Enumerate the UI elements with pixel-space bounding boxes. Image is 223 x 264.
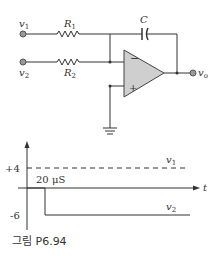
svg-text:+: + (129, 82, 137, 93)
v2-label: v2 (19, 67, 29, 80)
svg-text:-6: -6 (10, 210, 20, 221)
figure-caption: 그림 P6.94 (12, 232, 67, 248)
r2-label: R2 (63, 67, 76, 80)
v1-label: v1 (19, 18, 29, 31)
svg-text:−: − (130, 52, 139, 65)
svg-text:+4: +4 (5, 163, 20, 174)
waveform-chart (18, 141, 200, 230)
v2-series-label: v2 (166, 201, 176, 214)
resistor-r1 (57, 31, 79, 37)
resistor-r2 (57, 59, 79, 65)
circuit-diagram (20, 28, 196, 134)
r1-label: R1 (63, 18, 76, 31)
vo-label: vo (198, 67, 208, 80)
vo-terminal (190, 70, 196, 76)
capacitor-label: C (140, 14, 148, 25)
time-annotation: 20 μS (36, 174, 65, 185)
v2-terminal (20, 59, 26, 65)
v1-terminal (20, 31, 26, 37)
figure: − + v1 R1 v2 R2 C vo +4 -6 20 μS t v1 v2 (0, 0, 223, 264)
x-axis-label: t (203, 182, 208, 193)
v1-series-label: v1 (166, 154, 176, 167)
